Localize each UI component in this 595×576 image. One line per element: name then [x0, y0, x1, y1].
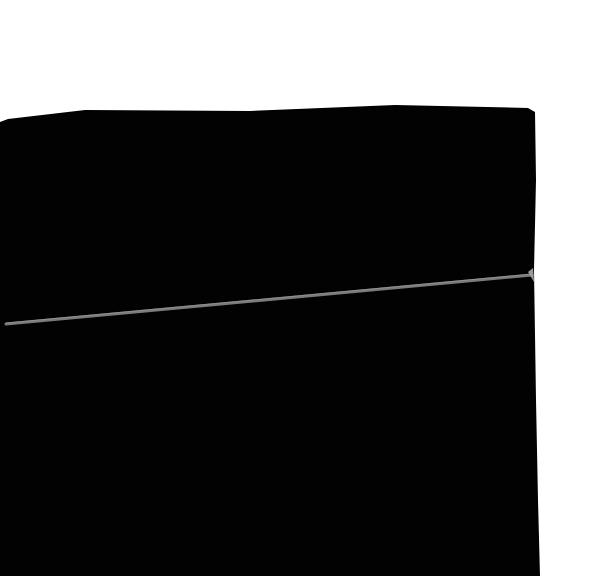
- photo-scene: [0, 0, 595, 576]
- black-object: [0, 105, 540, 576]
